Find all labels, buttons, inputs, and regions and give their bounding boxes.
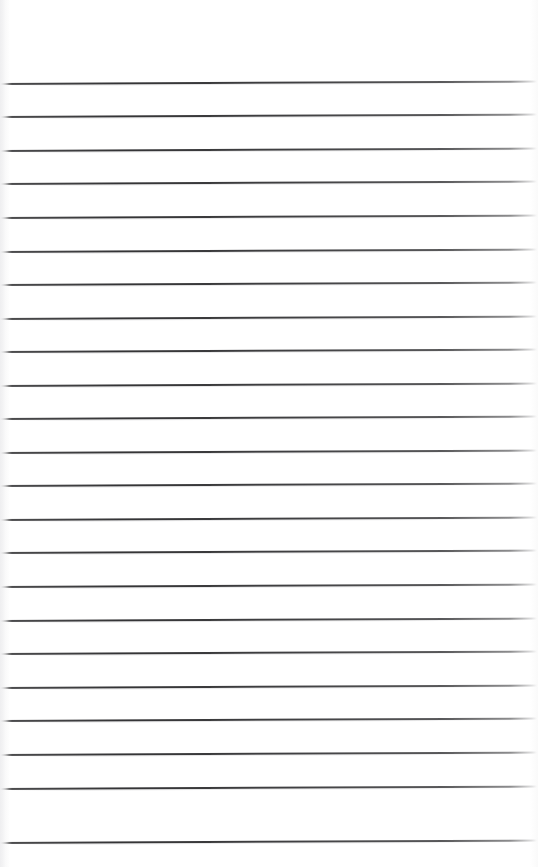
ruled-line <box>0 550 537 554</box>
ruled-line <box>0 114 537 118</box>
ruled-line <box>0 618 537 622</box>
ruled-line <box>0 752 537 756</box>
ruled-line <box>0 148 537 152</box>
ruled-line <box>0 450 537 454</box>
ruled-line <box>0 517 537 521</box>
ruled-line <box>0 685 537 689</box>
ruled-line <box>0 316 537 320</box>
ruled-line <box>0 181 537 185</box>
ruled-line <box>0 786 537 790</box>
ruled-line <box>0 651 537 655</box>
ruled-line <box>0 81 537 85</box>
scanned-page <box>0 0 538 867</box>
ruled-line <box>0 840 537 844</box>
ruled-line <box>0 483 537 487</box>
ruled-line <box>0 349 537 353</box>
ruled-line <box>0 718 537 722</box>
ruled-line <box>0 215 537 219</box>
ruled-line <box>0 282 537 286</box>
ruled-line <box>0 383 537 387</box>
ruled-lines-group <box>0 0 538 867</box>
ruled-line <box>0 249 537 253</box>
ruled-line <box>0 584 537 588</box>
ruled-line <box>0 416 537 420</box>
